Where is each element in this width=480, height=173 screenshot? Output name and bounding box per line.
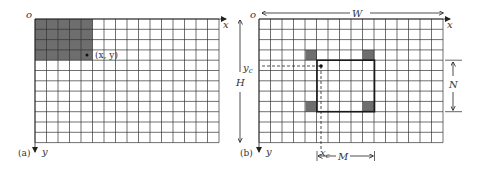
center-y-label: yc	[242, 62, 253, 75]
figure: o x y (a) (x, y) o x y (b) W H	[0, 0, 480, 173]
center-point	[319, 64, 323, 68]
point-marker	[86, 54, 89, 57]
height-label: H	[235, 77, 245, 88]
window-width-label: M	[337, 151, 349, 162]
x-axis-label: x	[223, 19, 229, 30]
caption-b: (b)	[240, 148, 253, 158]
x-axis-label: x	[447, 19, 453, 30]
center-x-label: xc	[320, 147, 330, 160]
panel-a: o x y (a) (x, y)	[18, 9, 229, 158]
y-axis-label: y	[265, 146, 272, 157]
origin-label: o	[26, 9, 32, 20]
width-label: W	[352, 8, 363, 19]
origin-label: o	[250, 9, 256, 20]
point-label: (x, y)	[95, 50, 118, 60]
y-axis-label: y	[41, 146, 48, 157]
panel-b: o x y (b) W H N M yc xc	[235, 8, 462, 162]
window-height-label: N	[448, 79, 459, 90]
pixel-grid	[259, 19, 443, 143]
caption-a: (a)	[18, 148, 30, 158]
